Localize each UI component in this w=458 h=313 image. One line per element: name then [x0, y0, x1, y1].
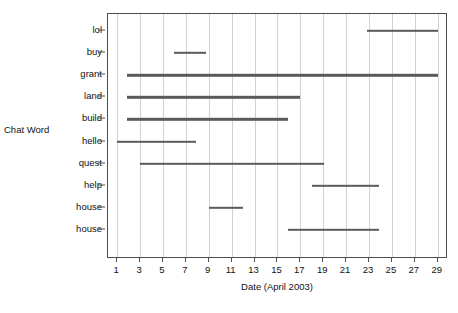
- x-axis-tick-label: 11: [226, 265, 236, 275]
- x-axis-tick-mark: [231, 258, 232, 262]
- x-axis-tick-label: 9: [205, 265, 210, 275]
- gantt-chart-figure: Chat Word lolbuygrantlandbuildhelloquest…: [0, 0, 458, 313]
- x-axis-tick-mark: [254, 258, 255, 262]
- x-axis-tick-mark: [276, 258, 277, 262]
- x-axis-tick-label: 3: [136, 265, 141, 275]
- x-axis-tick-mark: [162, 258, 163, 262]
- x-axis-tick-mark: [414, 258, 415, 262]
- x-axis-tick-label: 23: [363, 265, 374, 275]
- x-axis-tick-mark: [345, 258, 346, 262]
- x-axis-tick-mark: [391, 258, 392, 262]
- x-axis-title: Date (April 2003): [241, 281, 313, 292]
- x-axis-tick-label: 21: [340, 265, 351, 275]
- x-axis-tick-mark: [299, 258, 300, 262]
- x-axis-tick-mark: [322, 258, 323, 262]
- x-axis-tick-label: 27: [409, 265, 420, 275]
- x-axis-ticks-and-labels: 1357911131517192123252729: [0, 0, 458, 313]
- x-axis-tick-label: 19: [317, 265, 328, 275]
- x-axis-tick-label: 7: [182, 265, 187, 275]
- x-axis-tick-label: 17: [294, 265, 305, 275]
- x-axis-tick-mark: [139, 258, 140, 262]
- x-axis-tick-label: 25: [386, 265, 397, 275]
- x-axis-tick-label: 13: [248, 265, 259, 275]
- x-axis-tick-label: 29: [431, 265, 442, 275]
- x-axis-tick-mark: [437, 258, 438, 262]
- x-axis-tick-label: 5: [159, 265, 164, 275]
- x-axis-tick-mark: [368, 258, 369, 262]
- x-axis-tick-label: 1: [114, 265, 119, 275]
- x-axis-tick-mark: [116, 258, 117, 262]
- x-axis-tick-label: 15: [271, 265, 282, 275]
- x-axis-tick-mark: [185, 258, 186, 262]
- x-axis-tick-mark: [208, 258, 209, 262]
